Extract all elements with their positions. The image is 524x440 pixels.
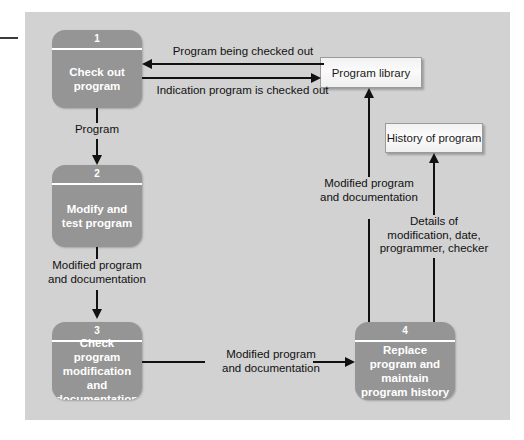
process-2-label: Modify and test program: [52, 185, 142, 247]
flow-indication-checked-out-label: Indication program is checked out: [150, 84, 335, 98]
process-box-2[interactable]: 2 Modify and test program: [52, 165, 142, 247]
process-4-number: 4: [355, 322, 455, 342]
flow-modified-program-doc-h-line-left: [142, 361, 205, 363]
flow-indication-checked-out-line: [142, 77, 312, 79]
diagram-canvas: 1 Check out program 2 Modify and test pr…: [0, 0, 524, 440]
process-3-label: Check program modification and documenta…: [52, 342, 142, 400]
process-1-number: 1: [52, 30, 142, 50]
flow-modified-program-doc-v-line-lower: [96, 290, 98, 310]
store-program-library-label: Program library: [332, 67, 411, 79]
flow-program-line-lower: [96, 139, 98, 156]
flow-indication-checked-out-arrowhead: [311, 73, 321, 83]
flow-modified-program-doc-v-arrowhead: [92, 309, 102, 319]
flow-to-library-line-upper: [368, 98, 370, 177]
process-1-label: Check out program: [52, 50, 142, 108]
diagram-panel: 1 Check out program 2 Modify and test pr…: [25, 12, 510, 420]
flow-modified-program-doc-v-line-upper: [96, 247, 98, 259]
process-4-label: Replace program and maintain program his…: [355, 342, 455, 400]
flow-to-history-line-lower: [433, 258, 435, 322]
flow-program-label: Program: [47, 123, 147, 137]
flow-program-being-checked-out-label: Program being checked out: [163, 45, 323, 59]
process-box-1[interactable]: 1 Check out program: [52, 30, 142, 108]
flow-modified-program-doc-v-label: Modified program and documentation: [28, 259, 166, 286]
flow-to-history-arrowhead: [429, 153, 439, 163]
flow-modified-program-doc-h-line-right: [313, 361, 346, 363]
flow-program-being-checked-out-line: [152, 63, 324, 65]
flow-to-history-label: Details of modification, date, programme…: [360, 215, 508, 256]
flow-to-library-label: Modified program and documentation: [300, 177, 438, 204]
left-margin-tick: [0, 37, 18, 39]
store-history-of-program[interactable]: History of program: [385, 123, 483, 153]
process-box-3[interactable]: 3 Check program modification and documen…: [52, 322, 142, 400]
flow-program-arrowhead: [92, 155, 102, 165]
flow-to-library-arrowhead: [364, 88, 374, 98]
store-program-library[interactable]: Program library: [320, 57, 422, 88]
process-2-number: 2: [52, 165, 142, 185]
flow-program-being-checked-out-arrowhead: [142, 59, 152, 69]
process-box-4[interactable]: 4 Replace program and maintain program h…: [355, 322, 455, 400]
store-history-of-program-label: History of program: [387, 132, 482, 144]
flow-modified-program-doc-h-arrowhead: [345, 357, 355, 367]
flow-to-history-line-upper: [433, 163, 435, 215]
flow-program-line-upper: [96, 108, 98, 123]
